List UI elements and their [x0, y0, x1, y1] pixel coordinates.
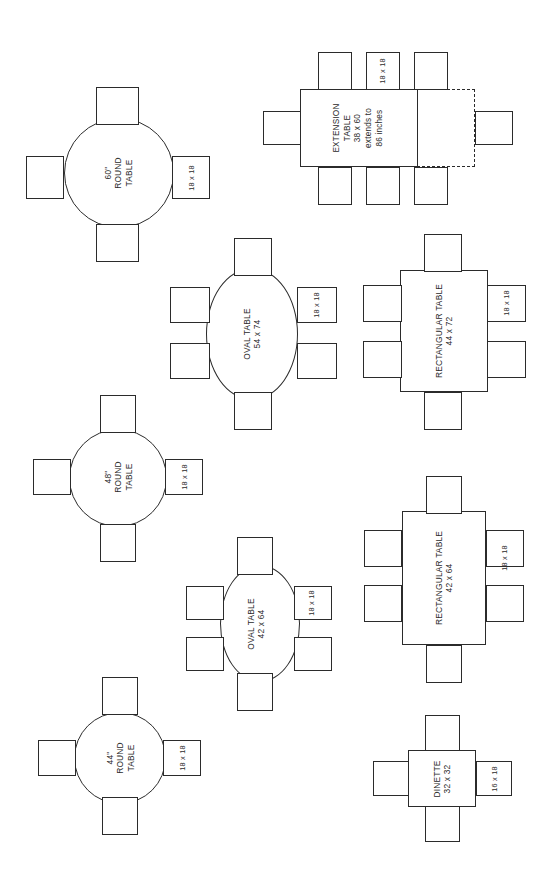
chair-right: [172, 156, 210, 199]
table-extension-leaf: [417, 89, 475, 167]
chair-bottom-2: [366, 167, 400, 205]
table-shape-round-48: [69, 429, 167, 527]
chair-bottom-1: [318, 167, 352, 205]
chair-left-end: [263, 111, 301, 145]
chair-left: [38, 740, 76, 776]
chair-right-end: [475, 111, 513, 145]
chair-top: [426, 476, 462, 514]
table-shape-round-44: [74, 712, 166, 804]
chair-right-2: [487, 341, 526, 378]
chair-left-2: [170, 343, 210, 379]
chair-right-2: [297, 343, 337, 379]
chair-right: [476, 761, 512, 796]
chair-left-2: [364, 585, 402, 622]
chair-top: [425, 715, 460, 751]
table-shape-oval-42-64: [220, 565, 300, 682]
chair-left-1: [363, 285, 402, 322]
table-shape-dinette-32-32: [408, 750, 476, 807]
chair-bottom: [425, 806, 460, 842]
chair-left-1: [186, 586, 224, 620]
chair-left-2: [186, 637, 224, 671]
chair-right: [165, 459, 203, 495]
chair-bottom: [237, 673, 273, 711]
chair-right-1: [294, 586, 332, 620]
chair-right-2: [486, 585, 524, 622]
table-shape-oval-54-74: [206, 268, 298, 400]
chair-left: [373, 761, 409, 796]
chair-top: [102, 677, 138, 715]
chair-left: [33, 459, 71, 495]
chair-left-1: [364, 530, 402, 567]
chair-top-3: [414, 52, 448, 90]
table-shape-rect-44-72: [400, 270, 488, 392]
chair-left-2: [363, 341, 402, 378]
chair-left: [26, 156, 64, 199]
chair-top: [100, 395, 136, 433]
chair-top: [237, 537, 273, 575]
chair-right-1: [487, 285, 526, 322]
table-shape-extension-table: [300, 89, 418, 167]
table-shape-rect-42-64: [402, 511, 486, 645]
chair-right: [163, 740, 201, 776]
chair-right-2: [294, 637, 332, 671]
chair-right-1: [297, 287, 337, 323]
chair-top: [234, 238, 272, 276]
chair-top-2: [366, 52, 400, 90]
diagram-canvas: 60" ROUND TABLE 18 x 18 EXTENSION TABLE …: [0, 0, 535, 887]
chair-bottom: [234, 392, 272, 430]
chair-bottom: [102, 797, 138, 835]
chair-left-1: [170, 287, 210, 323]
chair-bottom-3: [414, 167, 448, 205]
chair-top: [96, 87, 139, 125]
chair-bottom: [426, 645, 462, 683]
chair-bottom: [424, 392, 462, 430]
table-shape-round-60: [64, 118, 174, 228]
chair-top-1: [318, 52, 352, 90]
chair-top: [424, 234, 462, 272]
chair-bottom: [100, 524, 136, 562]
chair-right-1: [486, 530, 524, 567]
chair-bottom: [96, 224, 139, 262]
